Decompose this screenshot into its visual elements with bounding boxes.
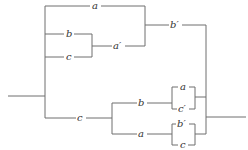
label-upper-b: b [66, 28, 72, 39]
label-lower-a: a [138, 128, 144, 139]
label-inner1-a: a [180, 81, 186, 92]
label-top-a: a [92, 0, 98, 11]
circuit-diagram: a b c a′ b′ c b a a c′ b′ c [0, 0, 248, 150]
label-lower-b: b [138, 97, 144, 108]
label-a-prime: a′ [113, 40, 122, 51]
label-upper-c: c [66, 51, 72, 62]
label-inner1-c-prime: c′ [178, 103, 187, 114]
label-b-prime: b′ [170, 19, 179, 30]
label-inner2-b-prime: b′ [177, 118, 186, 129]
label-inner2-c: c [180, 139, 186, 150]
label-lower-c: c [77, 112, 83, 123]
